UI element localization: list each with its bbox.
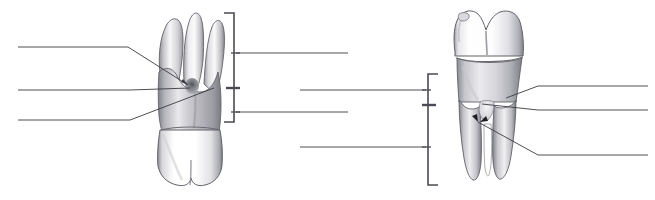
left-bracket-spine bbox=[224, 13, 234, 122]
left-tooth-illustration bbox=[158, 13, 225, 186]
left-tooth-furcation bbox=[185, 78, 199, 94]
right-bracket[interactable] bbox=[422, 74, 438, 185]
tooth-anatomy-figure bbox=[0, 0, 655, 200]
right-tooth-occlusal-groove bbox=[486, 31, 487, 55]
left-bracket[interactable] bbox=[224, 13, 240, 122]
left-tooth-root-palatal bbox=[184, 13, 204, 86]
middle-leader-lines-group bbox=[236, 53, 426, 147]
figure-canvas bbox=[0, 0, 655, 200]
right-tooth-root-distal bbox=[493, 100, 516, 179]
right-tooth-root-mesial bbox=[459, 100, 481, 180]
right-tooth-mesial-cusp-notch bbox=[458, 13, 469, 21]
right-tooth-interradicular-space bbox=[484, 124, 492, 176]
